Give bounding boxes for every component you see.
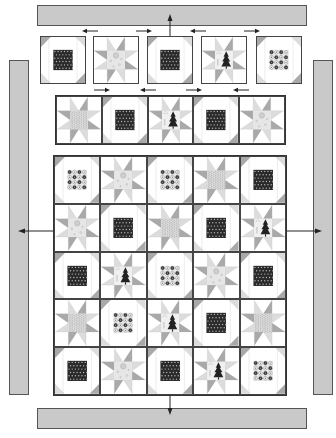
quilt-block-star-speckle xyxy=(56,96,102,144)
bottom-border-arrow-icon xyxy=(166,395,174,415)
quilt-block-snowball-circles xyxy=(54,156,100,204)
right-border-arrow-icon xyxy=(284,227,322,235)
quilt-block-snowball-circles xyxy=(240,347,286,395)
pressing-arrow-left-icon xyxy=(233,87,249,93)
quilt-block-star-tree xyxy=(148,96,194,144)
quilt-block-star-tree xyxy=(193,347,239,395)
quilt-block-snowball-circles xyxy=(100,299,146,347)
quilt-block-star-tree xyxy=(201,36,247,84)
quilt-block-snowball-dots xyxy=(193,204,239,252)
quilt-block-snowball-dots xyxy=(54,252,100,300)
quilt-block-star-print xyxy=(239,96,285,144)
quilt-block-snowball-dots xyxy=(54,347,100,395)
pressing-arrow-right-icon xyxy=(186,87,202,93)
quilt-block-star-tree xyxy=(240,204,286,252)
pressing-arrow-left-icon xyxy=(190,28,206,34)
quilt-block-star-print xyxy=(100,347,146,395)
quilt-block-star-speckle xyxy=(54,299,100,347)
pressing-arrow-right-icon xyxy=(94,87,110,93)
quilt-block-star-speckle xyxy=(240,299,286,347)
quilt-block-snowball-dots xyxy=(193,299,239,347)
quilt-block-snowball-dots xyxy=(100,204,146,252)
main-quilt-grid xyxy=(53,155,287,396)
quilt-block-snowball-dots xyxy=(240,156,286,204)
quilt-block-snowball-dots xyxy=(102,96,148,144)
quilt-block-snowball-dots xyxy=(193,96,239,144)
quilt-block-snowball-circles xyxy=(256,36,302,84)
pressing-arrow-right-icon xyxy=(244,28,260,34)
quilt-block-star-print xyxy=(193,252,239,300)
quilt-block-star-print xyxy=(54,204,100,252)
top-border-arrow-icon xyxy=(166,14,174,38)
quilt-block-snowball-dots xyxy=(240,252,286,300)
left-border-arrow-icon xyxy=(18,227,56,235)
quilt-block-snowball-dots xyxy=(147,36,193,84)
middle-row-blocks xyxy=(55,95,286,145)
quilt-block-snowball-dots xyxy=(40,36,86,84)
quilt-block-star-speckle xyxy=(193,156,239,204)
quilt-block-star-print xyxy=(100,156,146,204)
quilt-block-snowball-circles xyxy=(147,156,193,204)
quilt-block-star-tree xyxy=(147,299,193,347)
quilt-block-snowball-circles xyxy=(147,252,193,300)
pressing-arrow-right-icon xyxy=(136,28,152,34)
pressing-arrow-left-icon xyxy=(140,87,156,93)
quilt-block-star-tree xyxy=(100,252,146,300)
pressing-arrow-left-icon xyxy=(82,28,98,34)
quilt-block-star-print xyxy=(93,36,139,84)
quilt-block-snowball-dots xyxy=(147,347,193,395)
quilt-block-star-speckle xyxy=(147,204,193,252)
